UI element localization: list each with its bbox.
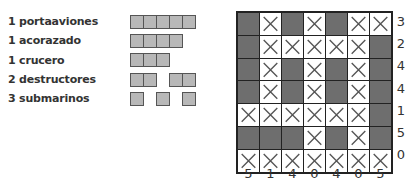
- ship-cell[interactable]: [370, 104, 391, 126]
- ship-cell[interactable]: [326, 13, 347, 35]
- row-clue: 3: [394, 14, 408, 29]
- water-cell[interactable]: [260, 81, 281, 103]
- water-cell[interactable]: [304, 127, 325, 149]
- x-mark-icon: [240, 106, 257, 124]
- water-cell[interactable]: [282, 104, 303, 126]
- x-mark-icon: [262, 38, 279, 56]
- x-mark-icon: [262, 106, 279, 124]
- col-clue: 0: [348, 166, 369, 181]
- ship-cell[interactable]: [370, 36, 391, 58]
- water-cell[interactable]: [326, 36, 347, 58]
- col-clue: 4: [282, 166, 303, 181]
- x-mark-icon: [372, 15, 389, 33]
- water-cell[interactable]: [348, 36, 369, 58]
- ship-cell[interactable]: [370, 81, 391, 103]
- fleet-row-destroyers: 2 destructores: [8, 70, 210, 89]
- ship-cell[interactable]: [260, 127, 281, 149]
- col-clue: 4: [326, 166, 347, 181]
- col-clue: 1: [260, 166, 281, 181]
- ship-cell[interactable]: [326, 59, 347, 81]
- col-clue: 0: [304, 166, 325, 181]
- water-cell[interactable]: [260, 104, 281, 126]
- water-cell[interactable]: [326, 104, 347, 126]
- water-cell[interactable]: [304, 36, 325, 58]
- ship-icon: [130, 53, 169, 67]
- ship-icon: [130, 73, 156, 87]
- x-mark-icon: [262, 61, 279, 79]
- ship-cell[interactable]: [326, 81, 347, 103]
- x-mark-icon: [306, 129, 323, 147]
- x-mark-icon: [328, 38, 345, 56]
- ship-icon: [130, 92, 143, 106]
- ship-cell[interactable]: [282, 127, 303, 149]
- ship-cell[interactable]: [238, 81, 259, 103]
- fleet-row-carrier: 1 portaaviones: [8, 12, 210, 31]
- water-cell[interactable]: [282, 36, 303, 58]
- ship-cell[interactable]: [282, 81, 303, 103]
- row-clue: 5: [394, 125, 408, 140]
- x-mark-icon: [306, 106, 323, 124]
- water-cell[interactable]: [348, 81, 369, 103]
- fleet-legend: 1 portaaviones 1 acorazado 1 crucero 2 d…: [8, 12, 210, 108]
- x-mark-icon: [306, 38, 323, 56]
- x-mark-icon: [306, 15, 323, 33]
- fleet-label: 1 portaaviones: [8, 15, 130, 28]
- water-cell[interactable]: [238, 104, 259, 126]
- water-cell[interactable]: [348, 104, 369, 126]
- water-cell[interactable]: [348, 59, 369, 81]
- fleet-ships: [130, 15, 210, 29]
- ship-cell[interactable]: [238, 36, 259, 58]
- water-cell[interactable]: [304, 104, 325, 126]
- x-mark-icon: [350, 15, 367, 33]
- x-mark-icon: [262, 83, 279, 101]
- ship-cell[interactable]: [282, 59, 303, 81]
- fleet-ships: [130, 53, 210, 67]
- x-mark-icon: [306, 61, 323, 79]
- fleet-row-submarines: 3 submarinos: [8, 89, 210, 108]
- x-mark-icon: [284, 38, 301, 56]
- water-cell[interactable]: [304, 81, 325, 103]
- ship-cell[interactable]: [370, 59, 391, 81]
- water-cell[interactable]: [260, 59, 281, 81]
- ship-cell[interactable]: [282, 13, 303, 35]
- x-mark-icon: [350, 106, 367, 124]
- fleet-label: 1 crucero: [8, 54, 130, 67]
- water-cell[interactable]: [260, 13, 281, 35]
- x-mark-icon: [350, 38, 367, 56]
- water-cell[interactable]: [370, 13, 391, 35]
- col-clue: 5: [238, 166, 259, 181]
- fleet-label: 2 destructores: [8, 73, 130, 86]
- water-cell[interactable]: [348, 13, 369, 35]
- fleet-label: 1 acorazado: [8, 34, 130, 47]
- x-mark-icon: [350, 61, 367, 79]
- x-mark-icon: [328, 106, 345, 124]
- row-clue: 2: [394, 36, 408, 51]
- ship-cell[interactable]: [326, 127, 347, 149]
- x-mark-icon: [350, 83, 367, 101]
- ship-icon: [182, 92, 195, 106]
- ship-cell[interactable]: [238, 13, 259, 35]
- fleet-label: 3 submarinos: [8, 92, 130, 105]
- row-clue: 0: [394, 147, 408, 162]
- x-mark-icon: [262, 15, 279, 33]
- fleet-row-cruiser: 1 crucero: [8, 51, 210, 70]
- fleet-ships: [130, 92, 210, 106]
- fleet-row-battleship: 1 acorazado: [8, 31, 210, 50]
- ship-icon: [156, 92, 169, 106]
- col-clue: 5: [370, 166, 391, 181]
- row-clue: 4: [394, 81, 408, 96]
- water-cell[interactable]: [348, 127, 369, 149]
- water-cell[interactable]: [304, 59, 325, 81]
- ship-cell[interactable]: [370, 127, 391, 149]
- ship-icon: [130, 34, 182, 48]
- ship-icon: [130, 15, 195, 29]
- water-cell[interactable]: [304, 13, 325, 35]
- fleet-ships: [130, 73, 210, 87]
- ship-cell[interactable]: [238, 127, 259, 149]
- row-clue: 1: [394, 103, 408, 118]
- ship-icon: [169, 73, 195, 87]
- ship-cell[interactable]: [238, 59, 259, 81]
- row-clue: 4: [394, 58, 408, 73]
- water-cell[interactable]: [260, 36, 281, 58]
- x-mark-icon: [306, 83, 323, 101]
